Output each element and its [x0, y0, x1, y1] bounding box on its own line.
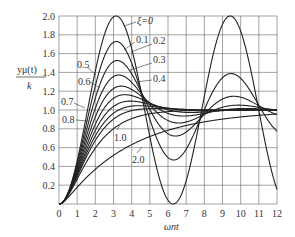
x-tick-label: 3 [111, 208, 116, 219]
x-axis-ticks: 0123456789101112 [57, 208, 283, 219]
label-z08: 0.8 [62, 114, 75, 125]
leader-z08 [76, 120, 88, 121]
step-response-chart: 0123456789101112 0.20.40.60.81.01.21.41.… [0, 0, 295, 237]
y-tick-label: 1.2 [43, 86, 56, 97]
x-tick-label: 1 [75, 208, 80, 219]
x-tick-label: 8 [202, 208, 207, 219]
y-tick-label: 0.8 [43, 123, 56, 134]
y-axis-ticks: 0.20.40.60.81.01.21.41.61.82.0 [43, 11, 56, 191]
leader-z07 [74, 103, 85, 108]
y-tick-label: 0.6 [43, 142, 56, 153]
x-tick-label: 7 [184, 208, 189, 219]
label-z07: 0.7 [61, 96, 74, 107]
y-axis-label-numerator: yμ(t) [17, 64, 37, 76]
x-tick-label: 9 [220, 208, 225, 219]
x-tick-label: 6 [166, 208, 171, 219]
label-z20: 2.0 [132, 154, 145, 165]
label-z10: 1.0 [114, 132, 127, 143]
label-xi0: ξ=0 [137, 15, 153, 27]
label-z03: 0.3 [153, 54, 166, 65]
x-tick-label: 4 [129, 208, 134, 219]
y-tick-label: 1.8 [43, 29, 56, 40]
x-axis-label: ωnt [164, 221, 179, 232]
y-tick-label: 2.0 [43, 11, 56, 22]
x-tick-label: 2 [93, 208, 98, 219]
leader-z02 [131, 44, 152, 52]
x-tick-label: 5 [147, 208, 152, 219]
label-z01: 0.1 [136, 34, 149, 45]
x-tick-label: 11 [254, 208, 264, 219]
label-z06: 0.6 [78, 76, 91, 87]
x-tick-label: 12 [272, 208, 282, 219]
leader-xi0 [124, 22, 136, 26]
y-tick-label: 0.2 [43, 180, 56, 191]
y-tick-label: 0.4 [43, 161, 56, 172]
y-tick-label: 1.6 [43, 48, 56, 59]
leader-z01 [124, 42, 135, 50]
label-z02: 0.2 [153, 35, 166, 46]
label-z05: 0.5 [77, 59, 90, 70]
x-tick-label: 0 [57, 208, 62, 219]
y-axis-label-denominator: k [27, 80, 32, 91]
y-tick-label: 1.4 [43, 67, 56, 78]
label-z04: 0.4 [153, 73, 166, 84]
y-tick-label: 1.0 [43, 105, 56, 116]
x-tick-label: 10 [236, 208, 246, 219]
